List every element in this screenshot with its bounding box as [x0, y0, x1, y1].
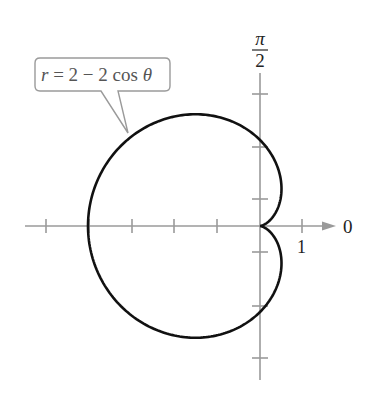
- equation-callout: r = 2 − 2 cos θ: [35, 58, 170, 133]
- tick-label-one: 1: [297, 237, 306, 257]
- equation-label: r = 2 − 2 cos θ: [41, 64, 152, 85]
- polar-axis-label: 0: [343, 216, 353, 237]
- polar-graph: 0 1 π 2 r = 2 − 2 cos θ: [0, 0, 377, 393]
- pi-over-two-numerator: π: [255, 28, 265, 49]
- pi-over-two-denominator: 2: [255, 50, 265, 71]
- polar-axis-arrow-icon: [322, 222, 336, 231]
